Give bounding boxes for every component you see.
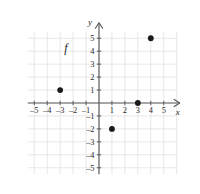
x-axis-label: x xyxy=(175,107,180,117)
function-name-label: f xyxy=(64,41,69,55)
y-tick-label: 5 xyxy=(90,34,94,43)
y-tick-label: 4 xyxy=(90,47,95,56)
axis-name-labels: xy xyxy=(87,17,180,117)
axis-tick-labels: –5–4–3–2–11234554321–1–2–3–4–5 xyxy=(29,34,166,173)
coordinate-plane-svg: –5–4–3–2–11234554321–1–2–3–4–5 xy f (–3,… xyxy=(0,0,200,194)
y-tick-label: 3 xyxy=(90,60,94,69)
x-tick-label: 3 xyxy=(136,106,140,115)
data-point: (1, –2) xyxy=(109,126,115,132)
axes xyxy=(28,23,180,174)
y-tick-label: –1 xyxy=(85,112,94,121)
data-point: (4, 5) xyxy=(148,35,154,41)
x-tick-label: –5 xyxy=(29,106,38,115)
x-tick-label: –4 xyxy=(42,106,52,115)
y-tick-label: –3 xyxy=(85,138,94,147)
y-tick-label: 1 xyxy=(90,86,94,95)
y-tick-label: –4 xyxy=(85,151,95,160)
x-tick-label: 2 xyxy=(123,106,127,115)
x-tick-label: 4 xyxy=(149,106,154,115)
x-tick-label: –2 xyxy=(68,106,77,115)
data-point: (3, 0) xyxy=(135,100,141,106)
function-label: f xyxy=(64,41,69,55)
x-tick-label: 5 xyxy=(162,106,166,115)
y-tick-label: 2 xyxy=(90,73,94,82)
data-point: (–3, 1) xyxy=(57,87,63,93)
data-points: (–3, 1)(1, –2)(3, 0)(4, 5) xyxy=(57,35,153,131)
x-tick-label: 1 xyxy=(110,106,114,115)
y-tick-label: –2 xyxy=(85,125,94,134)
coordinate-plane-figure: –5–4–3–2–11234554321–1–2–3–4–5 xy f (–3,… xyxy=(0,0,200,194)
y-tick-label: –5 xyxy=(85,164,94,173)
y-axis-label: y xyxy=(87,17,92,27)
x-tick-label: –3 xyxy=(55,106,64,115)
